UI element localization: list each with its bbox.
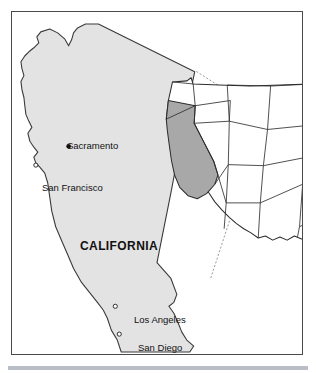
united-states-inset-map — [166, 78, 302, 240]
state-label-california: CALIFORNIA — [80, 240, 158, 252]
bottom-rule — [8, 366, 308, 370]
city-label-san-francisco: San Francisco — [42, 183, 103, 193]
city-label-san-diego: San Diego — [138, 343, 182, 353]
california-locator-map: Sacramento San Francisco Los Angeles San… — [0, 0, 316, 373]
marker-san-francisco — [34, 163, 38, 167]
city-label-sacramento: Sacramento — [67, 141, 118, 151]
marker-san-diego — [117, 332, 121, 336]
marker-los-angeles — [113, 304, 117, 308]
city-label-los-angeles: Los Angeles — [134, 315, 186, 325]
map-frame: Sacramento San Francisco Los Angeles San… — [11, 11, 303, 355]
